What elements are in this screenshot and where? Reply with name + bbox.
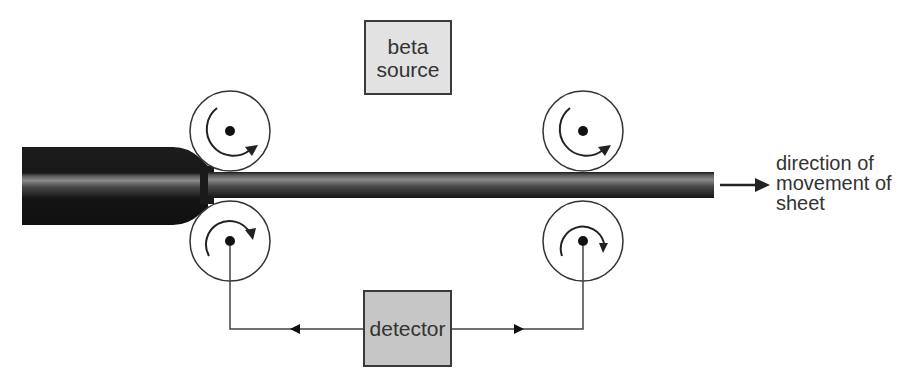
- roller-top-left: [190, 91, 270, 171]
- beta-source-box: beta source: [364, 20, 452, 95]
- roller-axle: [578, 236, 588, 246]
- wire-left-arrow: [290, 324, 300, 334]
- roller-axle: [225, 126, 235, 136]
- beta-source-label-line1: beta: [376, 35, 439, 58]
- direction-label-line2: movement of: [776, 173, 892, 193]
- roller-axle: [225, 236, 235, 246]
- roller-axle: [578, 126, 588, 136]
- direction-arrow-head: [755, 178, 770, 192]
- wire-right-arrow: [514, 324, 524, 334]
- beta-source-label-line2: source: [376, 58, 439, 81]
- detector-label: detector: [370, 317, 446, 340]
- direction-label: direction of movement of sheet: [776, 153, 892, 213]
- direction-label-line3: sheet: [776, 193, 892, 213]
- detector-box: detector: [363, 290, 452, 367]
- direction-label-line1: direction of: [776, 153, 892, 173]
- roller-top-right: [543, 91, 623, 171]
